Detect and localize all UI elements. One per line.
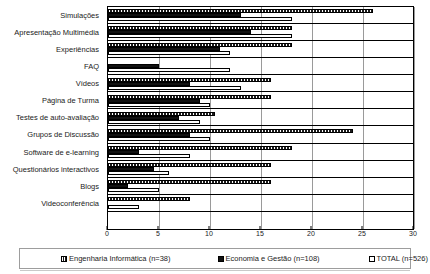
bar-group-bars <box>108 7 414 23</box>
bar-group <box>108 109 414 126</box>
bar-group-bars <box>108 161 414 177</box>
legend-item[interactable]: Economia e Gestão (n=108) <box>218 254 320 263</box>
category-label: Software de e-learning <box>0 144 103 161</box>
category-axis-labels: SimulaçõesApresentação MultimédiaExperiê… <box>0 7 103 229</box>
category-label: Grupos de Discussão <box>0 126 103 143</box>
bar-group-bars <box>108 41 414 57</box>
category-label: FAQ <box>0 58 103 75</box>
legend-label: Engenharia Informática (n=38) <box>69 254 171 263</box>
bar-group <box>108 161 414 178</box>
category-label: Testes de auto-avaliação <box>0 109 103 126</box>
bar-group <box>108 75 414 92</box>
bar-group-bars <box>108 144 414 160</box>
legend-label: TOTAL (n=526) <box>377 254 428 263</box>
category-label: Apresentação Multimédia <box>0 24 103 41</box>
bar <box>108 180 271 184</box>
bar <box>108 120 200 124</box>
bar-group <box>108 24 414 41</box>
bar <box>108 197 190 201</box>
bar-group-bars <box>108 178 414 194</box>
tick-label: 25 <box>358 230 366 237</box>
bar <box>108 188 159 192</box>
bar-group <box>108 144 414 161</box>
category-label: Vídeos <box>0 75 103 92</box>
chart-legend: Engenharia Informática (n=38)Economia e … <box>19 248 411 269</box>
tick-label: 30 <box>409 230 417 237</box>
bar-rows <box>108 7 414 229</box>
tick-label: 5 <box>156 230 160 237</box>
plot-area: SimulaçõesApresentação MultimédiaExperiê… <box>0 0 430 240</box>
bar-group <box>108 7 414 24</box>
category-label: Simulações <box>0 7 103 24</box>
bar <box>108 137 210 141</box>
bar-group-bars <box>108 58 414 74</box>
bar-group <box>108 58 414 75</box>
category-label: Página de Turma <box>0 92 103 109</box>
tick-label: 15 <box>256 230 264 237</box>
category-label: Blogs <box>0 178 103 195</box>
tick-label: 20 <box>307 230 315 237</box>
legend-swatch-icon <box>218 256 224 262</box>
category-label: Questionários interactivos <box>0 161 103 178</box>
category-label: Videoconferência <box>0 195 103 212</box>
bar <box>108 205 139 209</box>
bar <box>108 34 292 38</box>
bar-group-bars <box>108 75 414 91</box>
tick-label: 10 <box>205 230 213 237</box>
bar-group <box>108 41 414 58</box>
bar-group-bars <box>108 126 414 142</box>
legend-underline <box>20 270 410 271</box>
bar-group-bars <box>108 109 414 125</box>
legend-swatch-icon <box>61 256 67 262</box>
legend-label: Economia e Gestão (n=108) <box>226 254 320 263</box>
bar <box>108 68 230 72</box>
bar-group <box>108 195 414 212</box>
bar <box>108 17 292 21</box>
legend-item[interactable]: TOTAL (n=526) <box>369 254 428 263</box>
bar-group <box>108 126 414 143</box>
gridline <box>414 7 415 229</box>
bar-group-bars <box>108 24 414 40</box>
bar <box>108 86 241 90</box>
row-separator <box>107 211 414 212</box>
category-label: Experiências <box>0 41 103 58</box>
bar <box>108 171 169 175</box>
bar <box>108 103 210 107</box>
bar-group <box>108 178 414 195</box>
bar-group-bars <box>108 92 414 108</box>
bar-group <box>108 92 414 109</box>
legend-item[interactable]: Engenharia Informática (n=38) <box>61 254 171 263</box>
bar-chart: SimulaçõesApresentação MultimédiaExperiê… <box>0 0 430 274</box>
bar <box>108 51 230 55</box>
bar-group-bars <box>108 195 414 211</box>
bar <box>108 154 190 158</box>
tick-label: 0 <box>105 230 109 237</box>
legend-swatch-icon <box>369 256 375 262</box>
value-axis-ticks: 051015202530 <box>107 230 414 242</box>
